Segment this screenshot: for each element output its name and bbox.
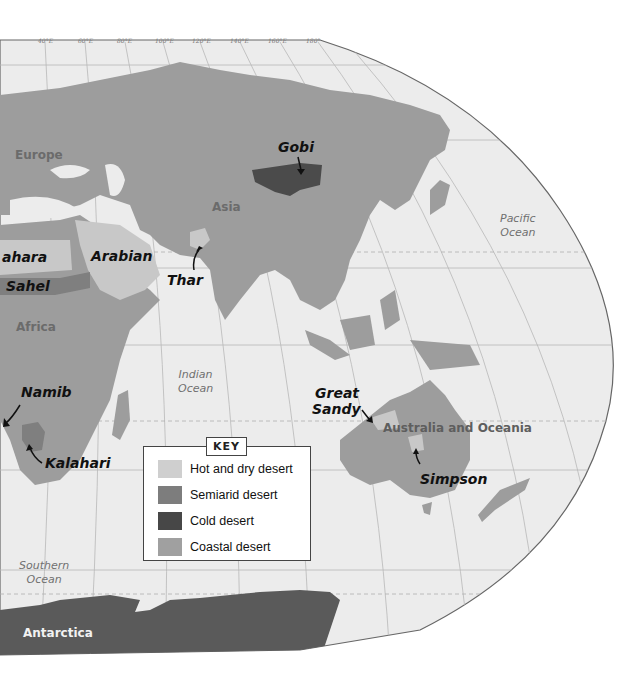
- legend-key: KEY Hot and dry desert Semiarid desert C…: [143, 446, 311, 561]
- desert-label-gobi: Gobi: [278, 140, 314, 154]
- legend-title: KEY: [206, 437, 247, 456]
- desert-label-sahara: ahara: [2, 250, 47, 264]
- ocean-label-line: Ocean: [178, 382, 213, 396]
- desert-label-kalahari: Kalahari: [45, 456, 111, 470]
- region-label-asia: Asia: [212, 201, 241, 213]
- lon-tick: 140°E: [230, 38, 249, 44]
- ocean-label-line: Pacific: [500, 212, 536, 226]
- ocean-label-line: Ocean: [19, 573, 69, 587]
- legend-label: Coastal desert: [190, 540, 271, 554]
- lon-tick: 120°E: [192, 38, 211, 44]
- legend-swatch: [158, 460, 182, 478]
- ocean-label-indian: Indian Ocean: [178, 368, 213, 396]
- region-label-europe: Europe: [15, 149, 63, 161]
- legend-item-cold: Cold desert: [158, 511, 254, 531]
- legend-swatch: [158, 512, 182, 530]
- lon-tick: 60°E: [78, 38, 93, 44]
- desert-label-sahel: Sahel: [6, 279, 50, 293]
- legend-label: Semiarid desert: [190, 488, 278, 502]
- desert-label-arabian: Arabian: [91, 249, 152, 263]
- desert-label-thar: Thar: [167, 273, 203, 287]
- ocean-label-line: Indian: [178, 368, 213, 382]
- region-label-africa: Africa: [16, 321, 56, 333]
- desert-label-namib: Namib: [21, 385, 72, 399]
- legend-label: Cold desert: [190, 514, 254, 528]
- lon-tick: 80°E: [117, 38, 132, 44]
- legend-item-coastal: Coastal desert: [158, 537, 271, 557]
- desert-label-simpson: Simpson: [420, 472, 487, 486]
- legend-item-hot-dry: Hot and dry desert: [158, 459, 293, 479]
- legend-item-semiarid: Semiarid desert: [158, 485, 278, 505]
- legend-swatch: [158, 486, 182, 504]
- legend-swatch: [158, 538, 182, 556]
- ocean-label-line: Ocean: [500, 226, 536, 240]
- ocean-label-pacific: Pacific Ocean: [500, 212, 536, 240]
- lon-tick: 40°E: [38, 38, 53, 44]
- desert-label-great-sandy-line2: Sandy: [312, 402, 361, 416]
- lon-tick: 100°E: [155, 38, 174, 44]
- ocean-label-southern: Southern Ocean: [19, 559, 69, 587]
- region-label-australia: Australia and Oceania: [383, 422, 532, 434]
- region-label-antarctica: Antarctica: [23, 627, 93, 639]
- desert-label-great-sandy-line1: Great: [315, 386, 359, 400]
- map-canvas: [0, 0, 639, 674]
- ocean-label-line: Southern: [19, 559, 69, 573]
- legend-label: Hot and dry desert: [190, 462, 293, 476]
- lon-tick: 180°: [306, 38, 320, 44]
- lon-tick: 160°E: [268, 38, 287, 44]
